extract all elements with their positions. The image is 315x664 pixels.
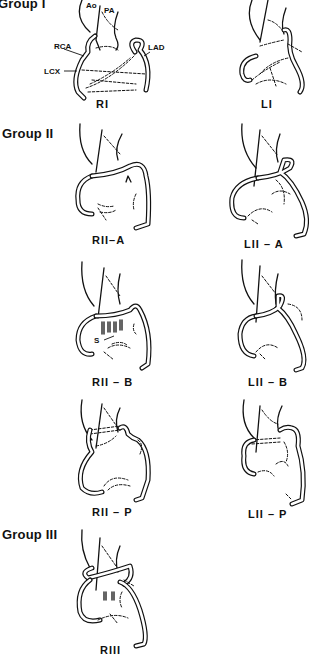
- panel-lii-a: LII – A: [160, 120, 315, 260]
- caption-rii-b: RII – B: [92, 376, 133, 388]
- heart-diagram-rii-a: [0, 120, 160, 260]
- panel-lii-b: LII – B: [160, 260, 315, 400]
- label-rca: RCA: [54, 42, 71, 51]
- label-lcx: LCX: [44, 67, 60, 76]
- panel-rii-a: RII–A: [0, 120, 160, 260]
- caption-r-i: RI: [96, 98, 109, 110]
- caption-lii-b: LII – B: [248, 376, 288, 388]
- heart-diagram-lii-b: [160, 260, 315, 400]
- heart-diagram-rii-b: [0, 260, 160, 400]
- caption-lii-a: LII – A: [244, 238, 284, 250]
- panel-rii-b: S RII – B: [0, 260, 160, 400]
- heart-diagram-l-i: [160, 0, 315, 120]
- caption-rii-p: RII – P: [92, 506, 133, 518]
- caption-riii: RIII: [100, 644, 121, 656]
- panel-r-i: Ao PA RCA LCX LAD RI: [0, 0, 160, 120]
- caption-rii-a: RII–A: [92, 234, 125, 246]
- caption-l-i: LI: [261, 98, 273, 110]
- heart-diagram-rii-p: [0, 400, 160, 530]
- panel-l-i: LI: [160, 0, 315, 120]
- heart-diagram-lii-a: [160, 120, 315, 260]
- caption-lii-p: LII – P: [248, 508, 287, 520]
- heart-diagram-lii-p: [160, 400, 315, 530]
- label-ao: Ao: [86, 1, 97, 10]
- label-s: S: [94, 336, 99, 345]
- panel-riii: RIII: [0, 520, 180, 664]
- heart-diagram-riii: [0, 520, 180, 664]
- heart-diagram-r-i: [0, 0, 160, 120]
- label-pa: PA: [104, 6, 115, 15]
- panel-lii-p: LII – P: [160, 400, 315, 530]
- panel-rii-p: RII – P: [0, 400, 160, 530]
